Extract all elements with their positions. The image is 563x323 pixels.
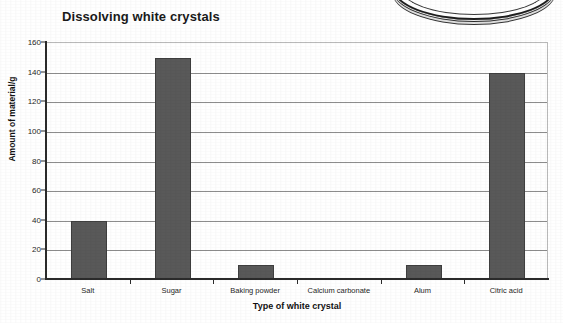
y-axis-tick-label: 0 <box>1 275 41 284</box>
plot-area <box>46 42 548 279</box>
y-axis-tick-mark <box>41 130 46 131</box>
x-axis-tick-label: Alum <box>414 286 431 295</box>
gridline <box>47 102 547 103</box>
gridline <box>47 162 547 163</box>
bar <box>71 221 107 280</box>
x-axis-tick-mark <box>464 280 465 284</box>
y-axis-tick-label: 20 <box>1 245 41 254</box>
x-axis-tick-mark <box>130 280 131 284</box>
y-axis-tick-mark <box>41 71 46 72</box>
x-axis-tick-label: Baking powder <box>230 286 280 295</box>
y-axis-tick-mark <box>41 42 46 43</box>
y-axis-tick-mark <box>41 279 46 280</box>
gridline <box>47 250 547 251</box>
y-axis-tick-mark <box>41 160 46 161</box>
x-axis-tick-label: Calcium carbonate <box>308 286 371 295</box>
y-axis-tick-mark <box>41 249 46 250</box>
gridline <box>47 191 547 192</box>
y-axis-tick-label: 160 <box>1 38 41 47</box>
y-axis-tick-mark <box>41 219 46 220</box>
x-axis-tick-mark <box>381 280 382 284</box>
bar <box>489 73 525 280</box>
gridline <box>47 73 547 74</box>
gridline <box>47 221 547 222</box>
x-axis-title: Type of white crystal <box>46 301 548 311</box>
bar-chart: Dissolving white crystals 02040608010012… <box>0 0 563 323</box>
x-axis-tick-label: Citric acid <box>490 286 523 295</box>
x-axis-tick-mark <box>297 280 298 284</box>
x-axis-tick-mark <box>213 280 214 284</box>
chart-title: Dissolving white crystals <box>62 9 220 24</box>
y-axis-title: Amount of material/g <box>7 49 17 189</box>
y-axis-tick-mark <box>41 190 46 191</box>
x-axis-tick-label: Salt <box>81 286 94 295</box>
y-axis-tick-label: 40 <box>1 215 41 224</box>
bar <box>155 58 191 280</box>
gridline <box>47 132 547 133</box>
x-axis-tick-label: Sugar <box>161 286 181 295</box>
y-axis-tick-mark <box>41 101 46 102</box>
